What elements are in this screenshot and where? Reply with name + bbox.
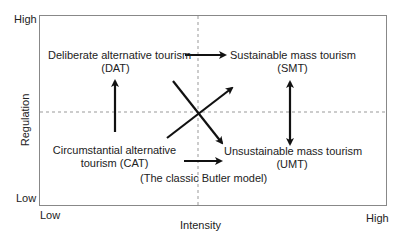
dat-label: Deliberate alternative tourism (DAT) [48, 49, 213, 75]
cat-line2: tourism (CAT) [52, 157, 177, 170]
diagram-canvas [0, 0, 406, 239]
smt-line1: Sustainable mass tourism [230, 49, 355, 62]
butler-annotation: (The classic Butler model) [140, 172, 267, 185]
umt-line2: (UMT) [224, 158, 360, 171]
smt-line2: (SMT) [230, 62, 355, 75]
x-axis-high: High [366, 212, 389, 225]
dat-line1: Deliberate alternative tourism [48, 49, 183, 62]
y-axis-low: Low [16, 192, 36, 205]
y-axis-title: Regulation [19, 94, 31, 147]
y-axis-high: High [14, 13, 37, 26]
x-axis-low: Low [40, 209, 60, 222]
x-axis-title: Intensity [180, 219, 221, 232]
umt-line1: Unsustainable mass tourism [224, 145, 360, 158]
cat-label: Circumstantial alternative tourism (CAT) [52, 144, 177, 170]
dat-line2: (DAT) [48, 62, 183, 75]
umt-label: Unsustainable mass tourism (UMT) [224, 145, 360, 171]
smt-label: Sustainable mass tourism (SMT) [230, 49, 355, 75]
cat-line1: Circumstantial alternative [52, 144, 177, 157]
